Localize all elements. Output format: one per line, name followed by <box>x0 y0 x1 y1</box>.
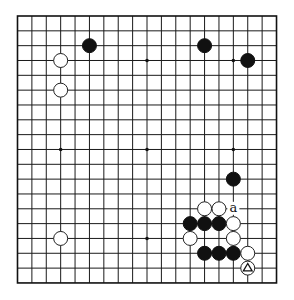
black-stone <box>198 39 212 53</box>
point-label: a <box>229 200 237 215</box>
star-point <box>232 148 236 152</box>
black-stone <box>241 53 255 67</box>
go-board: a <box>0 0 294 300</box>
black-stone <box>226 172 240 186</box>
black-stone <box>183 217 197 231</box>
black-stone <box>82 39 96 53</box>
star-point <box>145 148 149 152</box>
star-point <box>145 237 149 241</box>
black-stone <box>212 246 226 260</box>
black-stone <box>198 217 212 231</box>
star-point <box>232 59 236 63</box>
white-stone <box>54 83 68 97</box>
black-stone <box>226 246 240 260</box>
black-stone <box>212 217 226 231</box>
white-stone <box>198 202 212 216</box>
white-stone <box>226 217 240 231</box>
labels-layer: a <box>227 200 239 215</box>
white-stone <box>54 231 68 245</box>
white-stone <box>183 231 197 245</box>
white-stone <box>241 246 255 260</box>
star-point <box>59 148 63 152</box>
white-stone <box>226 231 240 245</box>
white-stone <box>54 53 68 67</box>
white-stone <box>212 202 226 216</box>
stones-layer <box>54 39 255 275</box>
star-point <box>145 59 149 63</box>
black-stone <box>198 246 212 260</box>
